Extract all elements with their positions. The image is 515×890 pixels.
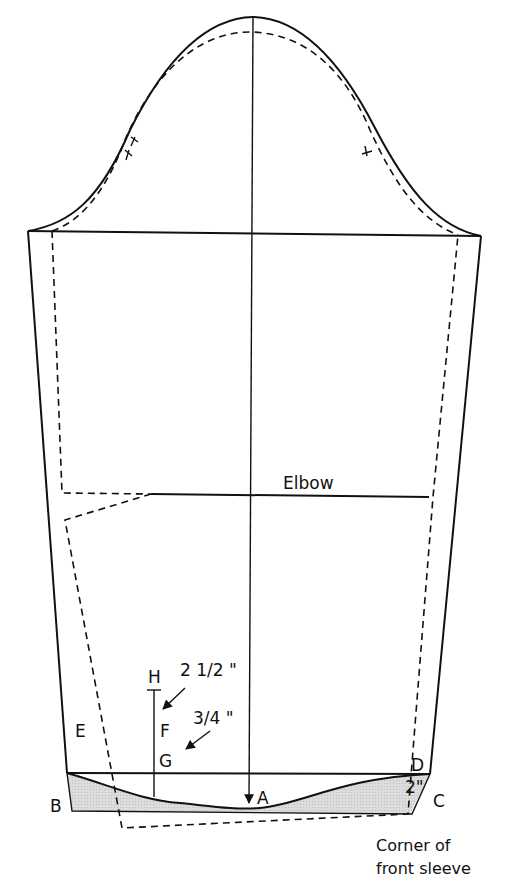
double-notch-back (125, 137, 138, 160)
hemline-ed (67, 773, 430, 774)
back-adjusted-seam (52, 231, 458, 828)
caption-line-2: front sleeve (376, 859, 471, 878)
point-f-label: F (160, 721, 170, 741)
elbow-line (151, 494, 429, 497)
measure-3-4-label: 3/4 " (193, 708, 234, 728)
front-side-seam (430, 236, 481, 774)
bicep-line (28, 231, 481, 236)
caption-line-1: Corner of (376, 836, 451, 855)
point-b-label: B (50, 796, 62, 816)
point-d-label: D (411, 755, 424, 775)
sleeve-pattern-diagram: Elbow H 2 1/2 " F 3/4 " E G D 2" A B C C… (0, 0, 515, 890)
measure-2-label: 2" (405, 777, 424, 797)
point-g-label: G (159, 751, 172, 771)
back-side-seam (28, 231, 67, 773)
pointer-arrow-2-1-2 (163, 688, 185, 709)
pointer-arrow-3-4 (186, 731, 210, 749)
sleeve-cap-adjusted-curve (52, 32, 458, 235)
point-a-label: A (257, 788, 269, 808)
measure-2-1-2-label: 2 1/2 " (180, 660, 237, 680)
elbow-label: Elbow (283, 473, 334, 493)
point-c-label: C (433, 791, 445, 811)
point-e-label: E (75, 721, 86, 741)
point-h-label: H (148, 667, 161, 687)
center-grainline (249, 17, 253, 803)
single-notch-front (362, 146, 372, 156)
